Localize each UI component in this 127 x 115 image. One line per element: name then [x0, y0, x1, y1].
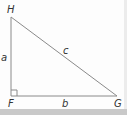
right-triangle-diagram: H F G a b c: [0, 0, 127, 115]
side-label-b: b: [62, 98, 68, 109]
vertex-label-g: G: [114, 98, 122, 109]
side-label-c: c: [63, 45, 69, 56]
triangle: [11, 17, 117, 96]
vertex-label-f: F: [8, 98, 14, 109]
vertex-label-h: H: [7, 4, 15, 15]
side-c-hypotenuse: [11, 17, 117, 96]
right-angle-marker: [11, 90, 17, 96]
side-label-a: a: [1, 52, 7, 63]
